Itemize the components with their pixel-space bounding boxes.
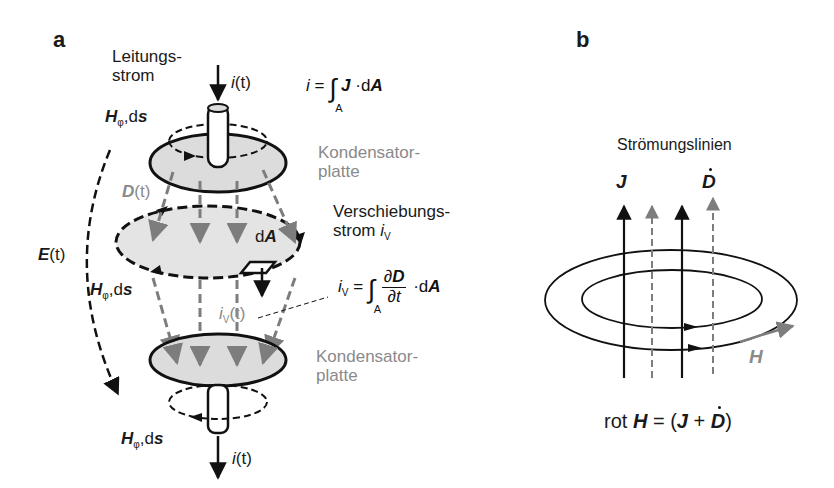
flow-lines-title: Strömungslinien — [617, 136, 732, 154]
conduction-current-line2: strom — [112, 67, 182, 86]
h-label: H — [749, 347, 763, 368]
panel-a-label: a — [53, 28, 65, 52]
conduction-current-label: Leitungs- strom — [112, 48, 182, 85]
h-field-top-label: Hφ,ds — [105, 108, 147, 128]
panel-b-label: b — [576, 28, 589, 52]
j-label: J — [616, 172, 627, 193]
area-element-label: dA — [255, 228, 277, 247]
h-field-bottom-label: Hφ,ds — [121, 430, 163, 450]
d-dot-label: D — [702, 172, 716, 193]
displacement-field-label: D(t) — [122, 183, 150, 202]
capacitor-plate-top-label: Kondensator- platte — [318, 144, 420, 181]
wire-top — [208, 105, 228, 167]
conduction-current-formula: i = ∫A J ·dA — [306, 74, 383, 103]
input-current-label: i(t) — [231, 74, 251, 93]
e-field-arrow — [87, 150, 118, 394]
conduction-current-line1: Leitungs- — [112, 48, 182, 67]
displacement-current-formula: iV = ∫A ∂D∂t ·dA — [338, 268, 441, 306]
electric-field-label: E(t) — [38, 246, 65, 265]
output-current-label: i(t) — [232, 450, 252, 469]
capacitor-plate-bottom — [150, 334, 286, 386]
capacitor-plate-bottom-label: Kondensator- platte — [316, 348, 418, 385]
curl-formula: rot H = (J + D) — [604, 410, 732, 432]
displacement-current-label: Verschiebungs- strom iV — [333, 203, 450, 242]
iv-label: iV(t) — [219, 305, 246, 325]
h-field-middle-label: Hφ,ds — [90, 281, 132, 301]
wire-bottom — [208, 385, 228, 433]
